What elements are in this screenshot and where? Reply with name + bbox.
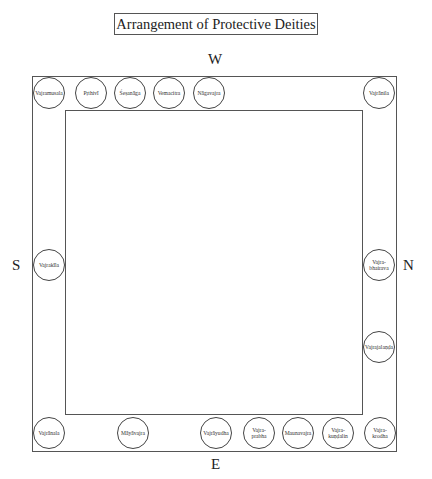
deity-circle: Nāgavajra <box>193 77 225 109</box>
deity-circle: Vajrānila <box>363 77 395 109</box>
deity-circle: Vajrāyudha <box>200 417 232 449</box>
deity-circle: Pṛthivī <box>75 77 107 109</box>
deity-circle: Vajra- bhairava <box>363 249 395 281</box>
deity-circle: Maunavajra <box>282 417 314 449</box>
deity-circle: Vajrānala <box>33 417 65 449</box>
deity-circle: Śeṣanāga <box>114 77 146 109</box>
deity-circle: Vemacitra <box>153 77 185 109</box>
deity-circle: Vajra- kuṇḍalin <box>322 417 354 449</box>
direction-south-label: S <box>12 258 20 273</box>
deity-circle: Vajramusala <box>33 77 65 109</box>
direction-west-label: W <box>208 52 222 67</box>
deity-circle: Vajrajalaṇḍa <box>363 331 395 363</box>
deity-circle: Vajrakīla <box>33 249 65 281</box>
deity-circle: Vajra- krodha <box>364 417 396 449</box>
diagram-title: Arrangement of Protective Deities <box>114 13 318 35</box>
inner-enclosure <box>65 110 363 415</box>
direction-east-label: E <box>211 457 220 472</box>
direction-north-label: N <box>403 258 414 273</box>
deity-circle: Māyāvajra <box>117 417 149 449</box>
deity-circle: Vajra- prabha <box>243 417 275 449</box>
